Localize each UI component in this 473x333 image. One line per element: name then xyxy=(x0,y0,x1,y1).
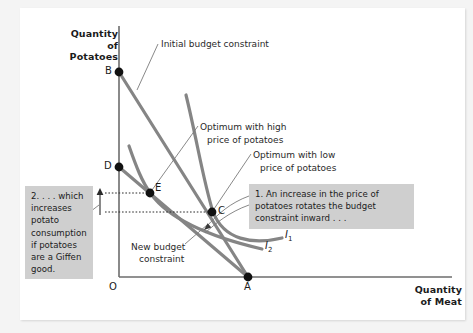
y-axis-title-line2: Potatoes xyxy=(58,51,118,63)
callout-giffen-good: 2. . . . which increases potato consumpt… xyxy=(25,186,93,279)
callout-price-increase: 1. An increase in the price of potatoes … xyxy=(249,184,414,229)
x-axis-title: Quantity of Meat xyxy=(390,284,462,307)
leader-optimum-low xyxy=(214,154,251,209)
leader-initial-budget xyxy=(137,44,158,90)
annotation-new-budget-line1: New budget xyxy=(131,241,185,253)
curve-label-i2: I2 xyxy=(265,240,272,254)
annotation-optimum-high-line1: Optimum with high xyxy=(200,121,287,133)
y-axis-title-line1: Quantity of xyxy=(58,28,118,51)
origin-label: O xyxy=(109,281,117,292)
y-axis-title: Quantity of Potatoes xyxy=(58,28,118,63)
curve-label-i1: I1 xyxy=(285,229,292,243)
figure-root: Quantity of Potatoes Quantity of Meat B … xyxy=(0,0,473,333)
annotation-optimum-low-line2: price of potatoes xyxy=(260,162,336,174)
point-E xyxy=(146,189,155,198)
point-label-B: B xyxy=(105,65,112,76)
curve-label-i2-sub: 2 xyxy=(268,246,272,254)
x-axis-title-line1: Quantity xyxy=(390,284,462,296)
point-label-E: E xyxy=(155,182,161,193)
annotation-initial-budget-constraint: Initial budget constraint xyxy=(161,38,269,50)
point-D xyxy=(115,163,124,172)
point-B xyxy=(115,68,124,77)
curve-label-i1-sub: 1 xyxy=(288,235,292,243)
x-axis-title-line2: of Meat xyxy=(390,296,462,308)
consumption-increase-arrow-head xyxy=(97,188,104,195)
point-label-A: A xyxy=(244,281,251,292)
point-label-D: D xyxy=(104,160,112,171)
annotation-new-budget-line2: constraint xyxy=(139,253,184,265)
annotation-optimum-high-line2: price of potatoes xyxy=(207,134,283,146)
annotation-optimum-low-line1: Optimum with low xyxy=(253,149,335,161)
point-label-C: C xyxy=(218,205,225,216)
point-C xyxy=(208,208,217,217)
